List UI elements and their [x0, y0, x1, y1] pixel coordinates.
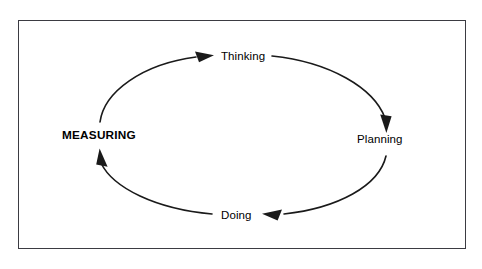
node-label-doing: Doing: [221, 209, 252, 222]
node-label-measuring: MEASURING: [62, 129, 136, 142]
arrowhead-into-thinking-icon: [195, 52, 214, 63]
node-label-planning: Planning: [357, 133, 403, 146]
edge-thinking-to-planning: [272, 56, 385, 118]
edge-planning-to-doing: [284, 156, 386, 214]
arrowhead-into-measuring-icon: [96, 149, 107, 167]
arrowhead-into-doing-icon: [262, 209, 282, 220]
edge-doing-to-measuring: [101, 163, 212, 214]
node-label-thinking: Thinking: [221, 50, 265, 63]
figure-root: MEASURING Thinking Planning Doing: [0, 0, 482, 269]
arrowhead-into-planning-icon: [380, 115, 391, 133]
edge-measuring-to-thinking: [100, 57, 196, 122]
